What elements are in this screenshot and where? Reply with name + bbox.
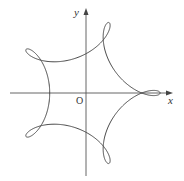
x-axis-label: x [167,94,173,106]
y-axis-label: y [73,6,79,18]
curve-diagram: x y O [0,0,184,181]
origin-label: O [76,95,83,106]
y-axis-arrow-icon [84,8,89,15]
